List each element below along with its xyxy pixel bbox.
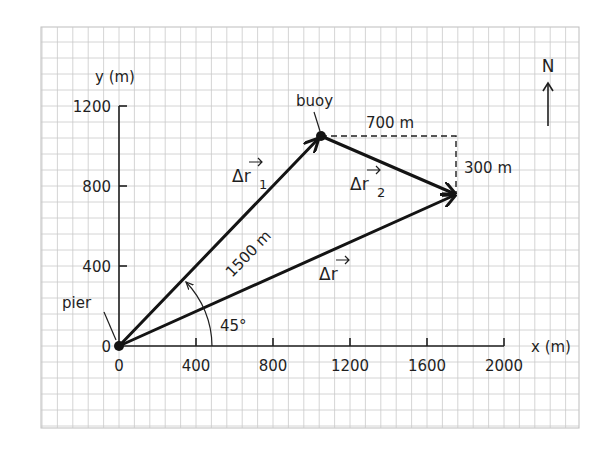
y-axis-label: y (m) <box>95 68 135 86</box>
x-axis-label: x (m) <box>531 338 571 356</box>
x-tick-label: 1600 <box>408 357 446 375</box>
vertical-component-label: 300 m <box>464 159 512 177</box>
angle-label: 45° <box>220 317 247 335</box>
x-tick-label: 0 <box>114 357 124 375</box>
pier-dot-icon <box>114 341 124 351</box>
y-tick-label: 0 <box>101 338 111 356</box>
dr1-symbol: Δr <box>232 166 251 186</box>
x-tick-label: 800 <box>259 357 288 375</box>
x-tick-label: 1200 <box>331 357 369 375</box>
y-tick-label: 800 <box>82 178 111 196</box>
y-tick-label: 1200 <box>73 98 111 116</box>
x-tick-label: 2000 <box>485 357 523 375</box>
x-tick-label: 400 <box>182 357 211 375</box>
buoy-label: buoy <box>296 92 333 110</box>
dr2-symbol: Δr <box>350 174 369 194</box>
dr-symbol: Δr <box>319 264 338 284</box>
y-tick-label: 400 <box>82 258 111 276</box>
buoy-dot-icon <box>316 131 326 141</box>
horizontal-component-label: 700 m <box>366 114 414 132</box>
dr1-subscript: 1 <box>259 177 267 192</box>
dr2-subscript: 2 <box>377 185 385 200</box>
pier-label: pier <box>62 294 92 312</box>
compass-label: N <box>542 56 555 76</box>
vector-displacement-diagram: 0 400 800 1200 1600 2000 0 400 800 1200 … <box>0 0 605 455</box>
